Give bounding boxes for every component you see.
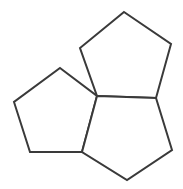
pentagon-cluster-canvas: [0, 0, 183, 189]
pentagon-cluster-figure: [0, 0, 183, 189]
